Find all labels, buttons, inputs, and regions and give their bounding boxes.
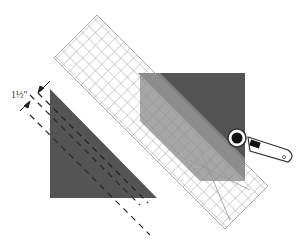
measurement-label: 1½" [11,89,28,100]
quilting-ruler [0,0,304,242]
diagram-svg [0,0,304,242]
diagram-canvas: 1½" [0,0,304,242]
